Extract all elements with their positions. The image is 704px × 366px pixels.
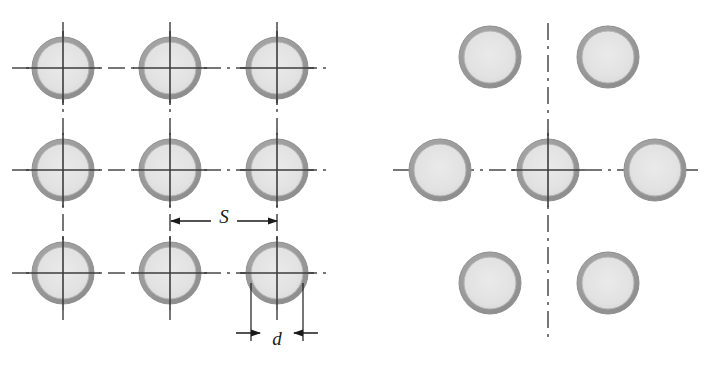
- hole: [409, 139, 471, 201]
- hole: [459, 26, 521, 88]
- pitch-dimension-label: S: [219, 206, 229, 227]
- hole-inner-bore: [464, 257, 516, 309]
- hole: [624, 139, 686, 201]
- hole: [459, 252, 521, 314]
- hole-inner-bore: [414, 144, 466, 196]
- hole-pattern-figure: S d: [0, 0, 704, 366]
- hole: [577, 26, 639, 88]
- hole-inner-bore: [629, 144, 681, 196]
- square-inline-hole-pattern: S d: [12, 22, 330, 349]
- hole-inner-bore: [582, 31, 634, 83]
- diameter-dimension-label: d: [272, 328, 282, 349]
- figure-root: S d: [0, 0, 704, 366]
- hole-inner-bore: [464, 31, 516, 83]
- hole-inner-bore: [582, 257, 634, 309]
- hole: [577, 252, 639, 314]
